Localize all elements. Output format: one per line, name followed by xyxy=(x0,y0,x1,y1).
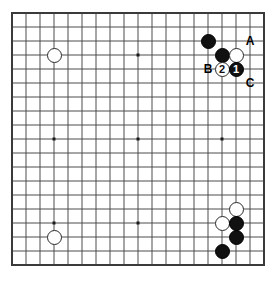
go-diagram: 21 ABC xyxy=(0,0,277,291)
point-mark-layer: ABC xyxy=(0,0,277,291)
point-mark-a: A xyxy=(243,34,257,48)
point-mark-b: B xyxy=(201,62,215,76)
point-mark-c: C xyxy=(243,76,257,90)
